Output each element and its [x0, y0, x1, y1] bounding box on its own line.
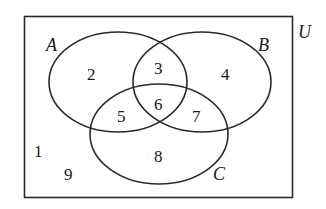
region-a-and-c: 5 [117, 107, 126, 126]
region-outside-9: 9 [64, 165, 73, 184]
region-outside-1: 1 [34, 142, 43, 161]
set-b-label: B [258, 35, 269, 55]
region-b-and-c: 7 [192, 107, 201, 126]
region-c-only: 8 [154, 147, 163, 166]
region-b-only: 4 [221, 65, 230, 84]
set-b-ellipse [133, 32, 271, 132]
venn-diagram: U A B C 2 3 4 5 6 7 8 1 9 [0, 0, 326, 209]
region-a-only: 2 [87, 65, 96, 84]
region-a-and-b: 3 [154, 59, 163, 78]
region-a-b-c: 6 [154, 95, 163, 114]
universe-label: U [298, 22, 312, 42]
set-c-label: C [213, 164, 226, 184]
set-a-label: A [45, 35, 58, 55]
